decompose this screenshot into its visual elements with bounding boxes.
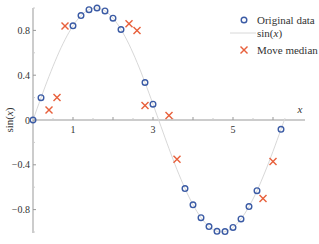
move-median-point xyxy=(174,156,181,163)
legend-label-sin: sin(x) xyxy=(257,27,282,40)
y-tick-label: −0.4 xyxy=(12,159,30,170)
x-tick-label: 5 xyxy=(231,124,236,135)
move-median-point xyxy=(134,27,141,34)
move-median-point xyxy=(62,22,69,29)
svg-text:sin(x): sin(x) xyxy=(3,107,16,132)
legend-cross-icon xyxy=(241,47,248,54)
chart: 1350.80.40−0.4−0.8 Original datasin(x)Mo… xyxy=(0,0,319,244)
x-tick-label: 3 xyxy=(151,124,156,135)
legend-label-median: Move median xyxy=(257,44,318,56)
move-median-point xyxy=(166,112,173,119)
legend: Original datasin(x)Move median xyxy=(230,14,318,56)
y-tick-label: −0.8 xyxy=(12,204,30,215)
y-tick-label: 0.8 xyxy=(18,25,31,36)
x-axis-label: x xyxy=(297,103,303,115)
move-median-point xyxy=(126,20,133,27)
move-median-point xyxy=(260,195,267,202)
y-axis-label: sin(x) xyxy=(3,107,16,132)
y-tick-label: 0 xyxy=(25,115,30,126)
x-tick-label: 1 xyxy=(71,124,76,135)
legend-label-original: Original data xyxy=(257,14,315,26)
legend-circle-icon xyxy=(241,17,247,23)
move-median-point xyxy=(46,106,53,113)
y-tick-label: 0.4 xyxy=(18,70,31,81)
move-median-point xyxy=(142,102,149,109)
move-median-point xyxy=(270,158,277,165)
move-median-point xyxy=(54,94,61,101)
